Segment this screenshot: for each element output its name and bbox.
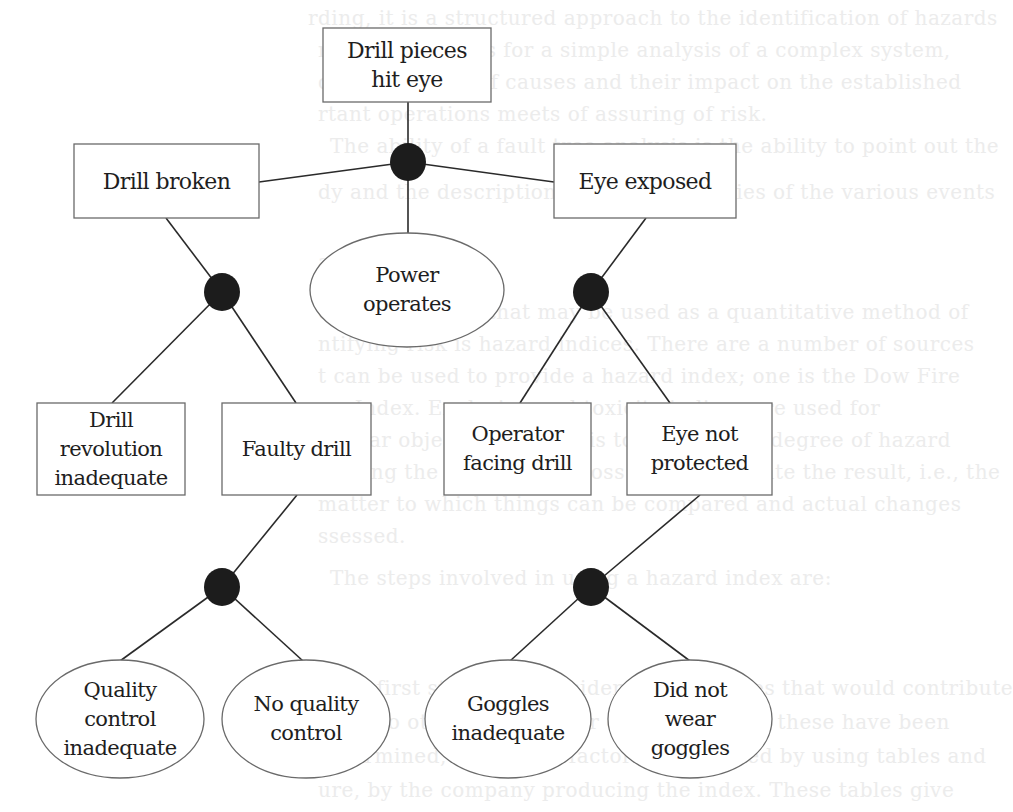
top-event-label: Drill pieces hit eye [323,28,491,102]
connector-gate-to-faulty-drill [222,292,296,403]
eye-exposed-label: Eye exposed [554,144,736,218]
operator-facing-label: Operator facing drill [444,403,591,495]
connector-gate-to-eye-exposed [408,162,554,182]
eye-not-protected-label: Eye not protected [627,403,772,495]
and-gate-drill-broken-icon [204,273,240,311]
and-gate-eye-exposed-icon [573,273,609,311]
qc-inadequate-label: Quality control inadequate [36,660,204,778]
connector-gate-to-eye-not-protected [591,292,670,403]
drill-broken-label: Drill broken [74,144,259,218]
connector-gate-to-no-goggles [591,587,690,661]
connector-gate-to-operator-facing [520,292,591,403]
faulty-drill-label: Faulty drill [222,403,371,495]
connector-gate-to-qc-inadequate [120,587,222,661]
and-gates [204,143,609,606]
connector-eye-not-protected-to-gate [591,495,700,587]
no-goggles-label: Did not wear goggles [608,660,772,778]
and-gate-eye-not-protected-icon [573,568,609,606]
and-gate-top-icon [390,143,426,181]
connector-gate-to-drill-revolution [112,292,222,403]
no-qc-label: No quality control [222,660,390,778]
drill-revolution-label: Drill revolution inadequate [37,403,185,495]
power-operates-label: Power operates [310,233,504,347]
goggles-inadequate-label: Goggles inadequate [425,660,591,778]
and-gate-faulty-drill-icon [204,568,240,606]
connector-gate-to-drill-broken [259,162,408,182]
